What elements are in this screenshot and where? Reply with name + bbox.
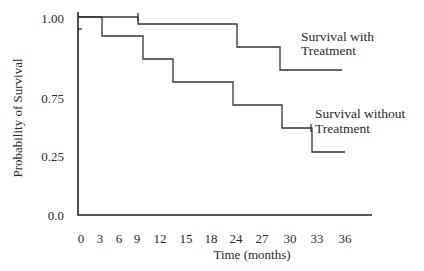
- survival-chart: 1.000.750.250.0 03691215182427303336 Sur…: [0, 0, 424, 271]
- x-tick-label: 33: [311, 231, 324, 246]
- annotation-with-treatment-line1: Survival with: [301, 29, 374, 44]
- x-tick-label: 18: [205, 231, 218, 246]
- x-tick-label: 24: [230, 231, 244, 246]
- x-tick-label: 6: [116, 231, 123, 246]
- x-tick-label: 3: [97, 231, 104, 246]
- annotation-with-treatment-line2: Treatment: [301, 43, 356, 58]
- x-tick-label: 0: [78, 231, 85, 246]
- y-tick-label: 0.0: [48, 208, 64, 223]
- annotations: Survival with Treatment Survival without…: [301, 29, 406, 136]
- censor-marks: [138, 13, 311, 132]
- y-tick-labels: 1.000.750.250.0: [41, 11, 64, 223]
- x-tick-labels: 03691215182427303336: [78, 231, 352, 246]
- y-tick-label: 0.25: [41, 149, 64, 164]
- annotation-without-treatment-line2: Treatment: [315, 121, 370, 136]
- annotation-without-treatment-line1: Survival without: [315, 106, 406, 121]
- x-tick-label: 12: [154, 231, 167, 246]
- x-tick-label: 15: [180, 231, 193, 246]
- y-tick-label: 0.75: [41, 91, 64, 106]
- x-tick-label: 9: [134, 231, 141, 246]
- x-axis-title: Time (months): [213, 247, 290, 262]
- x-tick-label: 36: [339, 231, 353, 246]
- x-tick-label: 30: [284, 231, 297, 246]
- y-tick-label: 1.00: [41, 11, 64, 26]
- x-tick-label: 27: [256, 231, 270, 246]
- y-axis-title: Probability of Survival: [10, 58, 25, 178]
